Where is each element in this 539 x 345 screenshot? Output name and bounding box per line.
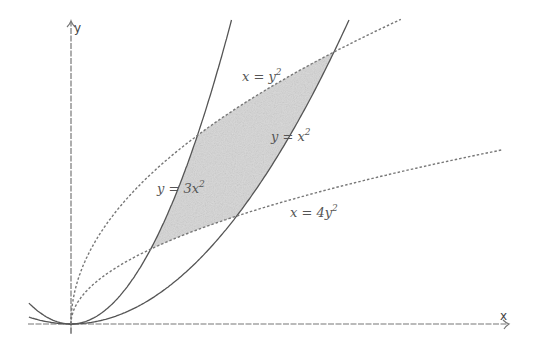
label-x-4y2: x = 4y2 [290, 204, 338, 219]
curve-x-4y2 [71, 150, 502, 324]
plot-canvas [0, 0, 539, 345]
label-x-y2: x = y2 [242, 68, 282, 83]
label-y-3x2: y = 3x2 [157, 180, 205, 195]
label-y-x2: y = x2 [271, 128, 311, 143]
y-axis-label: y [74, 22, 81, 34]
x-axis-label: x [500, 310, 507, 322]
